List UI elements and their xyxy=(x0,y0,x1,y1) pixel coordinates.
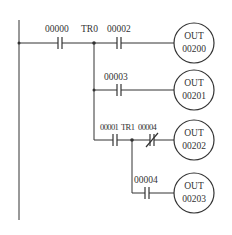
label-00000: 00000 xyxy=(45,24,69,34)
coil-address: 00201 xyxy=(182,91,206,101)
coil-00203[interactable]: OUT 00203 xyxy=(174,173,214,213)
contact-00002-no[interactable] xyxy=(117,37,121,49)
label-00001: 00001 xyxy=(100,122,119,132)
coil-00201[interactable]: OUT 00201 xyxy=(174,70,214,110)
coil-prefix: OUT xyxy=(184,78,204,88)
label-00004: 00004 xyxy=(134,175,158,185)
rung-1: 00000 TR0 00002 OUT 00200 xyxy=(18,23,215,63)
coil-address: 00202 xyxy=(182,141,206,151)
coil-address: 00203 xyxy=(182,194,206,204)
label-tr0: TR0 xyxy=(81,24,98,34)
label-tr1: TR1 xyxy=(121,122,135,132)
contact-00000-no[interactable] xyxy=(58,37,62,49)
label-00004-nc: 00004 xyxy=(138,122,158,132)
rung-3: 00001 TR1 00004 OUT 00202 xyxy=(94,120,214,160)
coil-address: 00200 xyxy=(182,44,206,54)
coil-00200[interactable]: OUT 00200 xyxy=(174,23,214,63)
label-00003: 00003 xyxy=(104,72,128,82)
label-00002: 00002 xyxy=(107,24,131,34)
coil-00202[interactable]: OUT 00202 xyxy=(174,120,214,160)
contact-00004-no[interactable] xyxy=(145,187,149,199)
rung-2: 00003 OUT 00201 xyxy=(93,70,215,110)
contact-00001-no[interactable] xyxy=(113,134,117,146)
coil-prefix: OUT xyxy=(184,31,204,41)
coil-prefix: OUT xyxy=(184,181,204,191)
coil-prefix: OUT xyxy=(184,128,204,138)
rung-4: 00004 OUT 00203 xyxy=(132,173,214,213)
ladder-diagram: 00000 TR0 00002 OUT 00200 00003 OUT 0020… xyxy=(0,0,232,235)
contact-00003-no[interactable] xyxy=(117,84,121,96)
